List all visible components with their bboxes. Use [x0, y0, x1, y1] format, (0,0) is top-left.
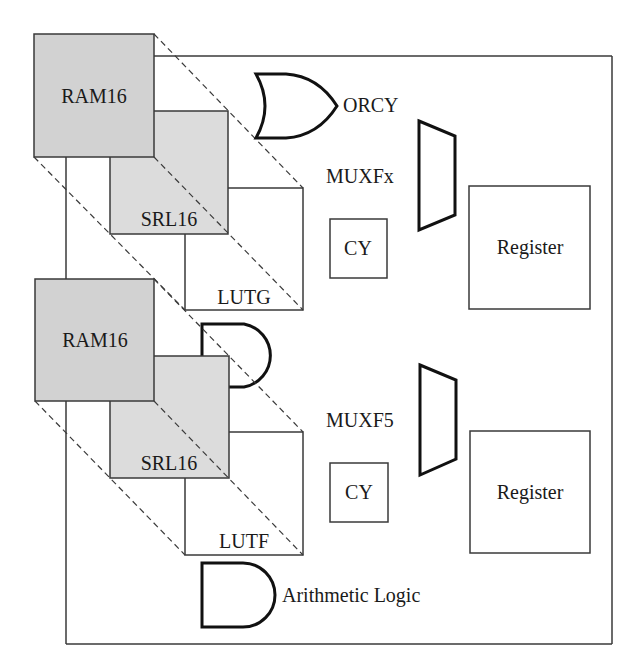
- muxf5: MUXF5: [326, 365, 456, 475]
- multiplexer-icon: [420, 365, 456, 475]
- lower-srl16-label: SRL16: [141, 452, 198, 474]
- lower-lut-stack: RAM16 SRL16 LUTF: [35, 279, 303, 555]
- lower-carry: CY: [330, 463, 388, 522]
- or-gate-icon: [256, 74, 337, 138]
- upper-register-label: Register: [497, 236, 564, 259]
- upper-register: Register: [469, 186, 590, 309]
- arithmetic-logic-label: Arithmetic Logic: [282, 584, 420, 607]
- upper-ram16-label: RAM16: [61, 85, 127, 107]
- lower-register-label: Register: [497, 481, 564, 504]
- lower-cy-label: CY: [345, 481, 373, 503]
- muxfx: MUXFx: [326, 121, 455, 230]
- lutg-label: LUTG: [217, 286, 270, 308]
- lower-ram16-label: RAM16: [62, 329, 128, 351]
- multiplexer-icon: [419, 121, 455, 230]
- muxfx-label: MUXFx: [326, 165, 394, 187]
- slice-diagram: RAM16 SRL16 LUTG ORCY MUXFx CY Register …: [0, 0, 639, 668]
- and-gate-icon: [202, 563, 275, 627]
- lower-register: Register: [470, 431, 590, 553]
- muxf5-label: MUXF5: [326, 409, 394, 431]
- upper-srl16-label: SRL16: [141, 208, 198, 230]
- orcy-label: ORCY: [343, 94, 399, 116]
- upper-cy-label: CY: [344, 237, 372, 259]
- orcy-gate: ORCY: [256, 74, 399, 138]
- arithmetic-logic-gate: Arithmetic Logic: [202, 563, 420, 627]
- lutf-label: LUTF: [219, 530, 269, 552]
- upper-carry: CY: [330, 219, 387, 278]
